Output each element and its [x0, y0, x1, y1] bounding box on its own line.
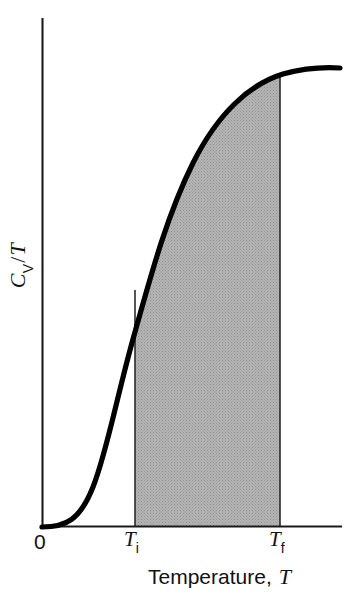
y-axis-numerator: C	[5, 273, 30, 288]
t-initial-subscript: i	[136, 540, 139, 556]
t-final-subscript: f	[281, 540, 285, 556]
tick-label-origin: 0	[34, 531, 46, 552]
y-axis-label-wrapper: CV/T	[0, 205, 40, 325]
t-final-symbol: T	[269, 527, 281, 551]
y-axis-denominator: T	[5, 243, 30, 255]
y-axis-label: CV/T	[7, 212, 32, 320]
y-axis-numerator-subscript: V	[21, 264, 37, 274]
y-axis-divider: /	[5, 255, 30, 263]
tick-label-t-initial: Ti	[124, 529, 139, 552]
x-axis-label-text: Temperature,	[148, 565, 272, 588]
figure-container: CV/T 0 Ti Tf Temperature,T	[0, 0, 357, 606]
shaded-area	[42, 68, 340, 527]
chart-canvas	[0, 0, 357, 606]
x-axis-label-symbol: T	[279, 564, 291, 589]
tick-label-t-final: Tf	[269, 529, 285, 552]
t-initial-symbol: T	[124, 527, 136, 551]
x-axis-label: Temperature,T	[148, 566, 291, 588]
